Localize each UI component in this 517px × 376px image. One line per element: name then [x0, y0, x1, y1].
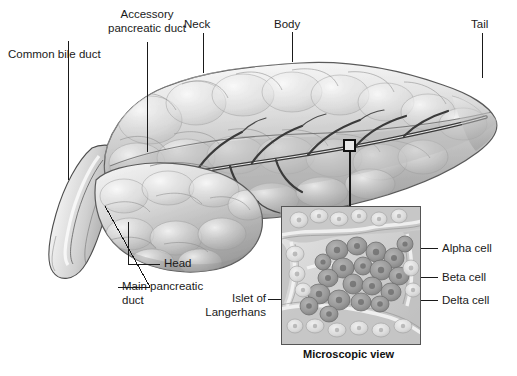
label-islet-line1: Islet of [168, 292, 266, 306]
label-tail: Tail [471, 18, 488, 32]
inset-caption: Microscopic view [303, 348, 394, 360]
label-common-bile-duct: Common bile duct [8, 48, 101, 62]
label-islet-line2: Langerhans [168, 306, 266, 320]
sample-site-marker [343, 139, 356, 152]
label-delta-cell: Delta cell [442, 294, 489, 308]
label-neck: Neck [184, 18, 210, 32]
islet-histology [281, 206, 421, 345]
label-main-pancreatic-duct-line2: duct [122, 294, 144, 308]
microscopic-view-inset [281, 206, 421, 345]
label-alpha-cell: Alpha cell [442, 242, 492, 256]
figure-canvas: Common bile duct Accessory pancreatic du… [0, 0, 517, 376]
label-beta-cell: Beta cell [442, 271, 486, 285]
label-head: Head [164, 257, 192, 271]
label-body: Body [274, 18, 300, 32]
